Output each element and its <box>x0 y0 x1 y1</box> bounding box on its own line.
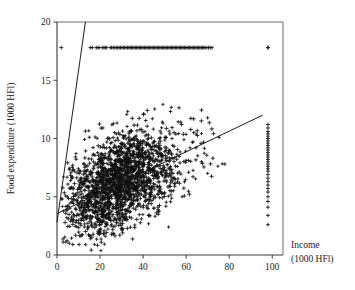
data-point <box>70 236 74 240</box>
data-point <box>216 165 219 168</box>
data-point <box>164 205 167 208</box>
data-point <box>65 176 68 179</box>
data-point <box>90 46 94 50</box>
data-point <box>61 205 64 208</box>
data-point <box>266 195 270 199</box>
scatter-plot: 02040608010005101520Food expenditure (10… <box>0 0 355 290</box>
data-point <box>167 129 170 132</box>
data-point <box>135 217 139 221</box>
data-point <box>86 221 90 225</box>
data-point <box>129 210 132 213</box>
data-point <box>177 106 181 110</box>
data-point <box>75 176 79 180</box>
data-point <box>143 130 146 133</box>
data-point <box>199 119 203 123</box>
data-point <box>151 117 154 120</box>
data-point <box>171 189 175 193</box>
data-point <box>266 183 270 187</box>
data-point <box>145 108 149 112</box>
data-point <box>206 116 210 120</box>
data-point <box>90 157 94 161</box>
data-point <box>266 176 270 180</box>
data-point <box>144 119 148 123</box>
x-tick-label: 0 <box>55 262 60 272</box>
data-point <box>75 219 78 222</box>
data-point <box>196 154 199 157</box>
data-point <box>153 107 156 110</box>
data-point <box>266 123 270 127</box>
data-point <box>161 103 164 106</box>
y-tick-label: 10 <box>41 134 51 144</box>
data-point <box>152 148 156 152</box>
data-point <box>138 213 142 217</box>
data-point <box>156 185 160 189</box>
data-point <box>113 224 117 228</box>
data-point <box>95 237 99 241</box>
data-point <box>162 179 166 183</box>
data-point <box>169 200 173 204</box>
data-point <box>102 229 106 233</box>
data-point <box>187 159 191 163</box>
data-point <box>266 187 270 191</box>
data-point <box>91 146 95 150</box>
x-tick-label: 100 <box>265 262 280 272</box>
data-point <box>183 194 187 198</box>
data-point <box>137 116 141 120</box>
data-point <box>152 207 155 210</box>
data-point <box>169 110 172 113</box>
data-point <box>139 139 143 143</box>
data-point <box>191 140 194 143</box>
data-point <box>96 243 100 247</box>
y-tick-label: 0 <box>46 250 51 260</box>
data-point <box>167 225 170 228</box>
data-point <box>93 243 96 246</box>
data-point <box>149 136 153 140</box>
data-point <box>187 190 191 194</box>
data-point <box>126 125 129 128</box>
data-point <box>195 129 199 133</box>
data-point <box>126 110 129 113</box>
data-point <box>139 197 142 200</box>
x-axis-title-units: (1000 HFl) <box>291 254 334 265</box>
axis-labels-layer: 02040608010005101520Food expenditure (10… <box>6 17 334 271</box>
data-point <box>106 228 109 231</box>
data-point <box>176 148 180 152</box>
data-point <box>203 152 206 155</box>
data-point <box>192 117 196 121</box>
data-point <box>125 113 128 116</box>
y-tick-label: 20 <box>41 17 51 27</box>
data-point <box>266 173 270 177</box>
data-point <box>203 147 207 151</box>
data-point <box>71 243 75 247</box>
data-point <box>99 237 102 240</box>
data-point <box>105 146 109 150</box>
data-point <box>212 132 216 136</box>
data-point <box>99 249 102 252</box>
data-point <box>266 46 270 50</box>
data-point <box>63 235 66 238</box>
data-point <box>103 242 106 245</box>
data-point <box>74 233 78 237</box>
data-point <box>130 116 134 120</box>
data-point <box>79 224 82 227</box>
data-point <box>139 221 143 225</box>
x-tick-label: 40 <box>138 262 148 272</box>
data-point <box>63 221 67 225</box>
data-point <box>194 177 197 180</box>
data-point <box>88 136 91 139</box>
data-point <box>142 112 146 116</box>
x-tick-label: 80 <box>224 262 234 272</box>
data-point <box>179 120 183 124</box>
data-point <box>176 177 179 180</box>
data-point <box>147 222 150 225</box>
data-point <box>178 161 182 165</box>
data-point <box>66 161 70 165</box>
data-point <box>153 214 157 218</box>
data-point <box>83 222 87 226</box>
data-point <box>164 126 168 130</box>
data-point <box>105 140 108 143</box>
data-point <box>177 132 181 136</box>
data-point <box>121 129 125 133</box>
data-point <box>77 230 81 234</box>
data-point <box>170 106 173 109</box>
